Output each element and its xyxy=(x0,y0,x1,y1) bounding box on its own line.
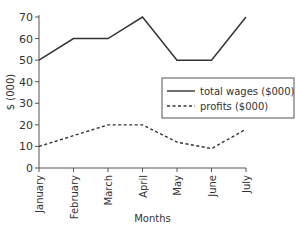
y-axis-label: $ (000) xyxy=(5,74,16,111)
y-tick-label: 0 xyxy=(26,162,33,175)
y-tick-label: 50 xyxy=(19,54,33,67)
x-tick-label: February xyxy=(69,175,80,219)
series-line xyxy=(39,17,246,60)
x-axis-label: Months xyxy=(134,213,171,224)
legend-label: total wages ($000) xyxy=(200,86,295,97)
y-tick-label: 60 xyxy=(19,33,33,46)
x-tick-label: January xyxy=(34,175,45,214)
x-tick-label: June xyxy=(207,175,218,198)
x-tick-label: July xyxy=(241,175,252,194)
x-tick-label: April xyxy=(138,175,149,198)
legend-label: profits ($000) xyxy=(200,101,268,112)
x-tick-label: March xyxy=(103,175,114,205)
line-chart: 010203040506070JanuaryFebruaryMarchApril… xyxy=(0,0,296,228)
y-tick-label: 10 xyxy=(19,140,33,153)
series-line xyxy=(39,125,246,149)
y-tick-label: 40 xyxy=(19,76,33,89)
y-tick-label: 70 xyxy=(19,11,33,24)
y-tick-label: 20 xyxy=(19,119,33,132)
y-tick-label: 30 xyxy=(19,97,33,110)
x-tick-label: May xyxy=(172,175,183,196)
legend xyxy=(162,78,294,118)
